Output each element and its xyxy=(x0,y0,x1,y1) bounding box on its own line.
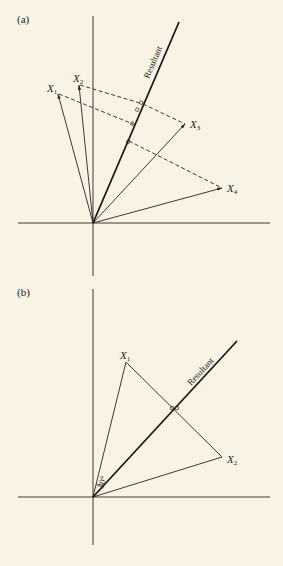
resultant-a xyxy=(93,22,179,223)
projection-x2-a xyxy=(80,85,143,104)
panel-a-label: (a) xyxy=(17,13,30,26)
projection-x3-a xyxy=(143,104,185,124)
panel-b: (b) Resultant 30° X1 X2 xyxy=(17,286,270,545)
vector-x4-a xyxy=(93,188,222,223)
label-x1-b: X1 xyxy=(119,349,131,363)
resultant-b xyxy=(93,341,237,497)
panel-b-label: (b) xyxy=(17,286,30,299)
panel-a: (a) Resultant X1 X2 X3 X4 xyxy=(17,13,270,276)
vector-x3-a xyxy=(93,124,185,223)
label-x3-a: X3 xyxy=(189,118,201,132)
right-angle-mark xyxy=(135,108,139,112)
resultant-label-b: Resultant xyxy=(185,355,216,387)
label-x2-b: X2 xyxy=(226,453,238,467)
resultant-label-a: Resultant xyxy=(142,44,165,80)
label-x4-a: X4 xyxy=(226,182,238,196)
vector-x2-a xyxy=(79,85,93,223)
vector-x1-a xyxy=(58,94,93,223)
label-x1-a: X1 xyxy=(46,82,58,96)
projection-x1-a xyxy=(59,94,133,124)
projection-x4-a xyxy=(129,141,220,187)
angle-label: 30° xyxy=(95,474,109,489)
label-x2-a: X2 xyxy=(72,72,84,86)
vector-diagram: (a) Resultant X1 X2 X3 X4 (b) xyxy=(0,0,283,566)
